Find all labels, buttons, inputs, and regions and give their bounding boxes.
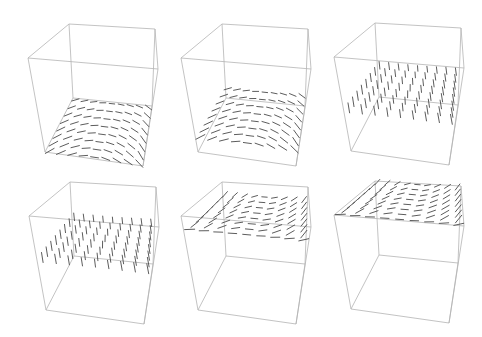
vector-segment xyxy=(121,261,123,270)
vector-segment xyxy=(122,218,123,224)
vector-segment xyxy=(118,230,119,237)
vector-segment xyxy=(378,201,385,204)
vector-segment xyxy=(423,190,429,191)
vector-segment xyxy=(419,92,420,99)
cube-edge xyxy=(70,182,74,256)
vector-segment xyxy=(204,223,212,228)
vector-slice xyxy=(335,179,463,225)
vector-segment xyxy=(381,75,382,83)
vector-segment xyxy=(134,263,136,272)
vector-segment xyxy=(412,215,420,216)
vector-segment xyxy=(112,248,113,256)
vector-segment xyxy=(272,230,280,233)
vector-segment xyxy=(143,121,149,127)
cube-panel-3 xyxy=(334,23,464,165)
vector-segment xyxy=(114,242,115,249)
cube-edge xyxy=(46,310,144,324)
cube-panel-1 xyxy=(28,24,158,167)
vector-segment xyxy=(106,142,113,145)
vector-segment xyxy=(290,94,297,97)
vector-segment xyxy=(75,226,76,234)
vector-segment xyxy=(401,188,407,190)
vector-segment xyxy=(138,238,139,246)
vector-segment xyxy=(57,151,66,155)
vector-segment xyxy=(417,98,418,106)
vector-segment xyxy=(353,97,355,107)
vector-segment xyxy=(271,93,277,94)
vector-segment xyxy=(79,238,80,246)
vector-segment xyxy=(390,187,396,190)
vector-segment xyxy=(243,143,251,144)
vector-segment xyxy=(453,88,454,97)
vector-segment xyxy=(74,138,82,140)
vector-segment xyxy=(428,99,429,107)
vector-segment xyxy=(395,70,396,77)
cube-edge xyxy=(69,24,73,98)
vector-segment xyxy=(401,209,408,210)
vector-segment xyxy=(78,107,85,109)
vector-segment xyxy=(295,123,301,130)
vector-segment xyxy=(269,100,275,101)
vector-segment xyxy=(288,219,295,223)
cube-edge xyxy=(46,256,74,310)
vector-segment xyxy=(420,195,427,196)
vector-segment xyxy=(79,220,80,227)
vector-segment xyxy=(55,236,56,245)
vector-segment xyxy=(191,221,199,227)
vector-segment xyxy=(136,105,142,108)
vector-segment xyxy=(135,256,137,265)
vector-segment xyxy=(226,125,234,127)
vector-segment xyxy=(137,244,138,252)
vector-segment xyxy=(228,233,237,234)
vector-segment xyxy=(426,215,434,218)
cube-edge xyxy=(29,182,70,216)
cube-edge xyxy=(351,309,449,323)
vector-segment xyxy=(74,115,82,117)
vector-segment xyxy=(135,113,142,116)
vector-segment xyxy=(216,101,224,104)
vector-segment xyxy=(132,218,133,225)
vector-segment xyxy=(55,254,57,263)
vector-segment xyxy=(402,77,403,84)
vector-segment xyxy=(374,106,375,115)
vector-segment xyxy=(128,231,129,238)
vector-segment xyxy=(439,107,441,116)
vector-segment xyxy=(285,238,295,239)
vector-segment xyxy=(444,80,445,88)
vector-segment xyxy=(443,200,450,204)
cube-edge xyxy=(375,23,461,28)
vector-slice xyxy=(45,99,151,167)
vector-segment xyxy=(405,71,406,77)
vector-segment xyxy=(455,68,456,75)
vector-segment xyxy=(115,150,123,155)
vector-segment xyxy=(272,197,278,198)
cube-edge xyxy=(45,98,73,152)
vector-segment xyxy=(240,97,247,98)
vector-segment xyxy=(390,102,391,110)
vector-segment xyxy=(104,150,112,153)
vector-segment xyxy=(267,144,275,149)
cube-edge xyxy=(334,23,375,57)
vector-segment xyxy=(251,121,258,122)
vector-segment xyxy=(366,79,367,88)
cube-edge xyxy=(226,256,305,264)
vector-segment xyxy=(139,144,144,152)
vector-segment xyxy=(208,114,216,118)
cube-edge xyxy=(334,215,464,226)
vector-segment xyxy=(404,204,411,205)
vector-segment xyxy=(288,101,295,104)
vector-segment xyxy=(231,141,240,142)
vector-segment xyxy=(233,111,241,112)
vector-segment xyxy=(127,237,128,245)
vector-segment xyxy=(261,225,269,226)
vector-segment xyxy=(130,136,137,141)
vector-segment xyxy=(226,215,233,218)
vector-segment xyxy=(455,75,456,83)
vector-segment xyxy=(441,210,449,214)
cube-edge xyxy=(351,151,449,165)
vector-segment xyxy=(91,157,99,158)
vector-segment xyxy=(369,93,370,102)
vector-segment xyxy=(75,244,76,252)
vector-segment xyxy=(79,155,88,156)
vector-segment xyxy=(72,250,73,259)
